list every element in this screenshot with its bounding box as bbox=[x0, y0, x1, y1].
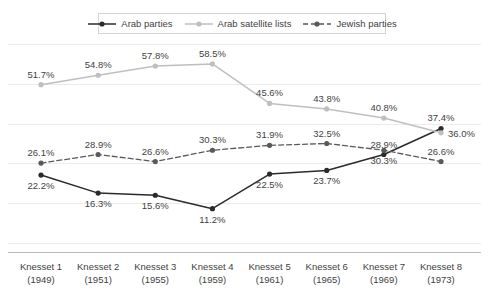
data-point bbox=[153, 193, 158, 198]
data-label: 15.6% bbox=[142, 200, 169, 211]
data-point bbox=[38, 82, 43, 87]
data-point bbox=[438, 130, 443, 135]
data-label: 54.8% bbox=[85, 59, 112, 70]
data-point bbox=[96, 152, 101, 157]
data-label: 30.3% bbox=[370, 155, 397, 166]
data-point bbox=[210, 206, 215, 211]
data-label: 16.3% bbox=[85, 198, 112, 209]
data-label: 58.5% bbox=[199, 48, 226, 59]
data-point bbox=[210, 61, 215, 66]
data-label: 45.6% bbox=[256, 87, 283, 98]
data-label: 51.7% bbox=[28, 69, 55, 80]
category-axis: Knesset 1(1949)Knesset 2(1951)Knesset 3(… bbox=[0, 252, 489, 294]
series-arab-parties: 22.2%16.3%15.6%11.2%22.5%23.7%28.9%37.4% bbox=[28, 112, 455, 224]
category-name: Knesset 7 bbox=[363, 261, 405, 272]
data-point bbox=[267, 172, 272, 177]
plot-area: 22.2%16.3%15.6%11.2%22.5%23.7%28.9%37.4%… bbox=[0, 0, 489, 294]
data-label: 32.5% bbox=[313, 128, 340, 139]
data-point bbox=[324, 141, 329, 146]
category-year: (1973) bbox=[401, 273, 481, 286]
gridlines bbox=[8, 45, 481, 244]
category-name: Knesset 3 bbox=[134, 261, 176, 272]
data-label: 23.7% bbox=[313, 175, 340, 186]
data-label: 11.2% bbox=[199, 214, 226, 225]
data-label: 28.9% bbox=[85, 139, 112, 150]
data-label: 26.6% bbox=[428, 146, 455, 157]
data-point bbox=[324, 168, 329, 173]
data-point bbox=[381, 115, 386, 120]
data-point bbox=[267, 143, 272, 148]
data-point bbox=[381, 148, 386, 153]
data-label: 26.1% bbox=[28, 147, 55, 158]
data-point bbox=[153, 63, 158, 68]
data-label: 31.9% bbox=[256, 129, 283, 140]
data-point bbox=[96, 190, 101, 195]
data-label: 40.8% bbox=[370, 102, 397, 113]
category-name: Knesset 1 bbox=[20, 261, 62, 272]
data-point bbox=[96, 73, 101, 78]
data-point bbox=[38, 172, 43, 177]
data-point bbox=[438, 159, 443, 164]
series-arab-satellite-lists: 51.7%54.8%57.8%58.5%45.6%43.8%40.8%36.0% bbox=[28, 48, 476, 139]
line-chart: Arab partiesArab satellite listsJewish p… bbox=[0, 0, 489, 294]
category-name: Knesset 6 bbox=[306, 261, 348, 272]
category-name: Knesset 2 bbox=[77, 261, 119, 272]
data-point bbox=[324, 106, 329, 111]
data-label: 30.3% bbox=[199, 134, 226, 145]
data-label: 26.6% bbox=[142, 146, 169, 157]
data-point bbox=[38, 160, 43, 165]
data-point bbox=[267, 101, 272, 106]
data-label: 43.8% bbox=[313, 93, 340, 104]
category-name: Knesset 4 bbox=[191, 261, 233, 272]
data-label: 36.0% bbox=[448, 128, 475, 139]
series-line bbox=[41, 64, 441, 133]
data-label: 37.4% bbox=[428, 112, 455, 123]
data-point bbox=[153, 159, 158, 164]
category-name: Knesset 5 bbox=[248, 261, 290, 272]
category-label-8: Knesset 8(1973) bbox=[401, 260, 481, 286]
data-label: 22.5% bbox=[256, 179, 283, 190]
data-label: 22.2% bbox=[28, 180, 55, 191]
data-point bbox=[210, 148, 215, 153]
data-label: 57.8% bbox=[142, 50, 169, 61]
category-name: Knesset 8 bbox=[420, 261, 462, 272]
